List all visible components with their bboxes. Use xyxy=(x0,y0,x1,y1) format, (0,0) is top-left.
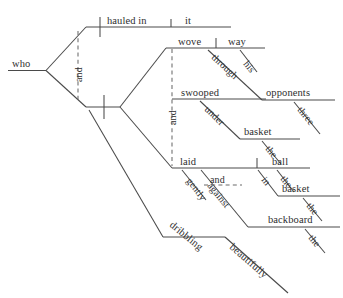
word-dribbling: dribbling xyxy=(168,219,206,253)
word-in: in xyxy=(259,174,273,187)
word-and-right: and xyxy=(167,110,178,125)
word-the-4: the xyxy=(306,232,323,249)
word-ball: ball xyxy=(272,156,288,167)
word-who: who xyxy=(12,58,30,69)
word-beautifully: beautifully xyxy=(228,241,271,280)
word-hauled-in: hauled in xyxy=(107,15,147,26)
word-basket-1: basket xyxy=(244,126,271,137)
word-basket-2: basket xyxy=(282,183,309,194)
word-under: under xyxy=(203,104,228,128)
fork-upper-branch xyxy=(46,27,86,71)
word-and-left: and xyxy=(73,67,84,82)
branch-to-predicate2 xyxy=(120,48,166,107)
word-through: through xyxy=(210,51,241,81)
sentence-diagram: who and hauled in it and wove way his th… xyxy=(0,0,343,298)
branch-to-predicate4 xyxy=(120,107,172,168)
word-backboard: backboard xyxy=(268,214,313,225)
word-three: three xyxy=(295,104,317,127)
word-it: it xyxy=(185,15,191,26)
sentence-diagram-canvas: who and hauled in it and wove way his th… xyxy=(0,0,343,298)
word-wove: wove xyxy=(178,36,201,47)
word-opponents: opponents xyxy=(266,87,310,98)
word-his: his xyxy=(241,58,257,74)
word-swooped: swooped xyxy=(181,87,220,98)
participle-branch xyxy=(89,110,163,237)
word-laid: laid xyxy=(180,156,197,167)
word-gently: gently xyxy=(184,175,208,202)
word-way: way xyxy=(228,36,246,47)
